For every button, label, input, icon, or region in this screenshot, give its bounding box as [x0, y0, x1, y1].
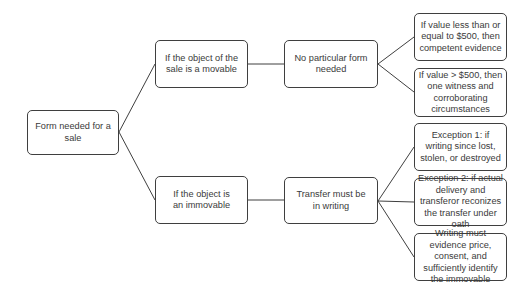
node-label: If value less than or equal to $500, the…: [418, 20, 503, 55]
node-label: Transfer must be in writing: [293, 189, 369, 212]
diagram-canvas: Form needed for a sale If the object of …: [0, 0, 532, 295]
node-label: If value > $500, then one witness and co…: [418, 70, 503, 116]
node-writing-must-evidence: Writing must evidence price, consent, an…: [414, 233, 507, 281]
node-label: Form needed for a sale: [31, 121, 115, 144]
node-label: Exception 2: if actual delivery and tran…: [418, 173, 503, 231]
node-value-le-500: If value less than or equal to $500, the…: [414, 13, 507, 61]
edge-transfer-writing: [378, 201, 414, 257]
node-no-particular-form: No particular form needed: [284, 40, 378, 88]
node-label: Writing must evidence price, consent, an…: [418, 228, 503, 286]
node-label: Exception 1: if writing since lost, stol…: [418, 130, 503, 165]
node-transfer-in-writing: Transfer must be in writing: [284, 177, 378, 224]
edge-root-immovable: [119, 132, 155, 200]
edge-transfer-exception2: [378, 201, 414, 202]
node-form-needed-for-sale: Form needed for a sale: [27, 110, 119, 155]
edge-no-form-value-gt: [378, 64, 414, 92]
node-label: No particular form needed: [293, 53, 369, 76]
node-label: If the object of the sale is a movable: [159, 53, 244, 76]
node-immovable: If the object is an immovable: [155, 176, 248, 224]
node-exception-1: Exception 1: if writing since lost, stol…: [414, 123, 507, 171]
node-value-gt-500: If value > $500, then one witness and co…: [414, 68, 507, 117]
node-label: If the object is an immovable: [168, 189, 235, 212]
node-movable: If the object of the sale is a movable: [155, 40, 248, 88]
edge-root-movable: [119, 64, 155, 132]
edge-transfer-exception1: [378, 147, 414, 201]
node-exception-2: Exception 2: if actual delivery and tran…: [414, 178, 507, 226]
edge-no-form-value-le: [378, 37, 414, 64]
